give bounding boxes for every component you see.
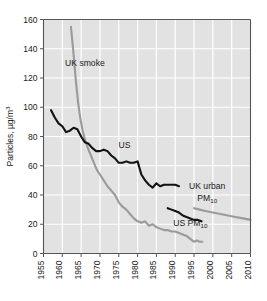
- y-tick-label: 20: [28, 219, 38, 229]
- chart-container: 020406080100120140160 195519601965197019…: [0, 0, 267, 301]
- x-tick-label: 1965: [73, 260, 83, 279]
- y-axis-title-text: Particles, µg/m3: [4, 106, 15, 166]
- x-tick-label: 1980: [130, 260, 140, 279]
- x-tick-label: 2010: [243, 260, 253, 279]
- y-tick-label: 120: [23, 73, 37, 83]
- uk-urban-pm10-label-line2-text: PM: [197, 193, 210, 203]
- y-axis-title-main: Particles, µg/m: [5, 110, 15, 166]
- x-tick-label: 1955: [36, 260, 46, 279]
- y-tick-label: 140: [23, 44, 37, 54]
- uk-urban-pm10-label-line2-subscript: 10: [210, 197, 217, 204]
- y-tick-label: 40: [28, 190, 38, 200]
- x-tick-label: 1970: [92, 260, 102, 279]
- particles-trend-line-chart: 020406080100120140160 195519601965197019…: [0, 0, 267, 301]
- uk-urban-pm10-label-line1: UK urban: [189, 181, 226, 191]
- x-tick-label: 2000: [205, 260, 215, 279]
- x-tick-label: 1960: [54, 260, 64, 279]
- x-tick-label: 2005: [224, 260, 234, 279]
- y-tick-label: 160: [23, 15, 37, 25]
- uk-urban-pm10-label-line1-text: UK urban: [189, 181, 226, 191]
- y-axis-title-superscript: 3: [4, 106, 11, 110]
- x-tick-label: 1985: [148, 260, 158, 279]
- x-tick-label: 1975: [111, 260, 121, 279]
- y-tick-label: 60: [28, 161, 38, 171]
- y-axis-title: Particles, µg/m3: [4, 106, 15, 166]
- y-tick-label: 80: [28, 132, 38, 142]
- y-tick-label: 100: [23, 102, 37, 112]
- us-label: US: [118, 140, 130, 150]
- x-tick-label: 1990: [167, 260, 177, 279]
- us-pm10-label-text: US PM: [173, 218, 200, 228]
- x-tick-label: 1995: [186, 260, 196, 279]
- us-pm10-label-subscript: 10: [200, 222, 207, 229]
- uk-smoke-label-text: UK smoke: [65, 58, 105, 68]
- us-label-text: US: [118, 140, 130, 150]
- uk-smoke-label: UK smoke: [65, 58, 105, 68]
- y-tick-label: 0: [33, 249, 38, 259]
